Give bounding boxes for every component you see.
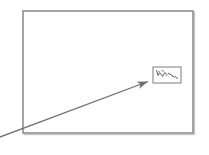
magnified-detail-box: [153, 67, 181, 83]
figure-container: Scanned figure with magnified inset call…: [0, 0, 209, 155]
figure-canvas: [0, 0, 209, 155]
